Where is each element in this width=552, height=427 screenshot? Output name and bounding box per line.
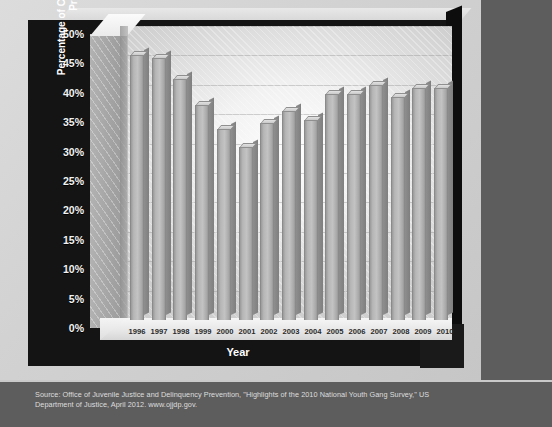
bar [282,111,296,320]
bar-side-face [187,71,192,315]
y-axis-title: Percentage of Cities Reporting Gang Prob… [56,0,80,80]
bar [173,79,187,320]
bar [412,88,426,320]
x-tick-label: 2009 [412,327,434,341]
x-axis-title: Year [28,346,448,358]
bar-front-face [173,79,187,320]
y-tick-label: 40% [63,87,84,99]
y-tick-label: 10% [63,263,84,275]
bar-side-face [144,48,149,315]
bar [434,88,448,320]
bar-front-face [304,120,318,320]
bar-series [126,26,452,320]
bar-front-face [152,58,166,320]
chart-figure: 50%45%40%35%30%25%20%15%10%5%0% Percenta… [28,6,468,376]
x-tick-label: 2010 [434,327,456,341]
y-tick-label: 5% [69,293,84,305]
bar-front-face [217,129,231,320]
x-tick-label: 1997 [148,327,170,341]
bar-front-face [260,123,274,320]
x-tick-label: 1999 [192,327,214,341]
bar-side-face [339,86,344,315]
x-tick-label: 2007 [368,327,390,341]
bar [347,94,361,320]
bar [130,55,144,320]
bar [369,85,383,320]
x-tick-label: 2002 [258,327,280,341]
bar [217,129,231,320]
x-tick-label: 2005 [324,327,346,341]
x-tick-label: 2003 [280,327,302,341]
y-tick-label: 15% [63,234,84,246]
bar-front-face [434,88,448,320]
bar-side-face [209,98,214,315]
x-tick-label: 2001 [236,327,258,341]
x-tick-label: 1996 [126,327,148,341]
bar-side-face [231,121,236,315]
caption-band: Source: Office of Juvenile Justice and D… [0,382,552,427]
bar [239,147,253,320]
bar [152,58,166,320]
bar-side-face [166,51,171,315]
bar-front-face [239,147,253,320]
bar-side-face [274,116,279,315]
bar-side-face [448,80,453,315]
bar [304,120,318,320]
bar-side-face [383,77,388,315]
bar [260,123,274,320]
source-note: Source: Office of Juvenile Justice and D… [35,390,465,409]
y-tick-label: 30% [63,146,84,158]
x-tick-label: 2004 [302,327,324,341]
bar-side-face [405,89,410,315]
x-tick-label: 1998 [170,327,192,341]
y-tick-label: 25% [63,175,84,187]
y-tick-label: 20% [63,204,84,216]
bar-front-face [325,94,339,320]
bar [325,94,339,320]
bar [391,97,405,320]
x-tick-label: 2000 [214,327,236,341]
bar-front-face [347,94,361,320]
x-tick-label: 2006 [346,327,368,341]
bar-side-face [426,80,431,315]
bar-front-face [130,55,144,320]
bar [195,105,209,320]
bar-side-face [361,86,366,315]
bar-top-face [239,143,257,148]
y-tick-label: 0% [69,322,84,334]
y-tick-label: 35% [63,116,84,128]
right-page-panel [481,0,552,380]
bar-front-face [195,105,209,320]
bar-front-face [391,97,405,320]
bar-side-face [318,113,323,315]
x-axis-tick-labels: 1996199719981999200020012002200320042005… [126,327,456,341]
bar-front-face [412,88,426,320]
bar-front-face [369,85,383,320]
x-tick-label: 2008 [390,327,412,341]
bar-side-face [296,104,301,315]
bar-side-face [253,139,258,315]
bar-front-face [282,111,296,320]
